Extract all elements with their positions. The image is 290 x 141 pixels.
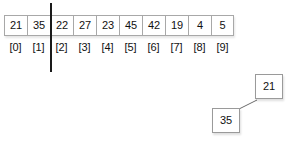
array-cell: 5: [211, 15, 234, 36]
selection-tree: 21 35: [205, 68, 290, 141]
array-index-label: [8]: [188, 40, 211, 54]
array-index-label: [2]: [50, 40, 73, 54]
array-index-label: [1]: [27, 40, 50, 54]
array-index-label: [6]: [142, 40, 165, 54]
tree-node-root: 21: [255, 74, 283, 99]
array-cell: 4: [188, 15, 211, 36]
array-cell: 19: [165, 15, 188, 36]
array-index-label: [4]: [96, 40, 119, 54]
array-index-row: [0] [1] [2] [3] [4] [5] [6] [7] [8] [9]: [4, 40, 234, 54]
array-index-label: [7]: [165, 40, 188, 54]
array-cell: 42: [142, 15, 165, 36]
array-cell: 23: [96, 15, 119, 36]
array-cell: 27: [73, 15, 96, 36]
array-row: 21 35 22 27 23 45 42 19 4 5: [4, 15, 234, 36]
array-partition-diagram: 21 35 22 27 23 45 42 19 4 5 [0] [1] [2] …: [0, 0, 290, 141]
array-index-label: [5]: [119, 40, 142, 54]
partition-divider-line: [50, 3, 52, 72]
array-index-label: [3]: [73, 40, 96, 54]
array-cell: 21: [4, 15, 27, 36]
array-cell: 45: [119, 15, 142, 36]
array-index-label: [9]: [211, 40, 234, 54]
array-cell: 22: [50, 15, 73, 36]
array-cell: 35: [27, 15, 50, 36]
tree-node-child: 35: [212, 108, 240, 133]
array-index-label: [0]: [4, 40, 27, 54]
